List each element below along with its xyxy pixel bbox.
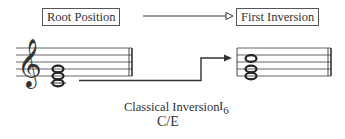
treble-clef-icon: 𝄞: [17, 38, 42, 89]
top-arrow-icon: [143, 13, 233, 20]
caption-title: Classical Inversion: [124, 100, 219, 115]
chord-symbol: C/E: [157, 114, 179, 130]
figured-bass: 6: [223, 104, 229, 116]
roman-numeral: I6: [219, 98, 229, 116]
connector-arrow-icon: [79, 55, 232, 81]
